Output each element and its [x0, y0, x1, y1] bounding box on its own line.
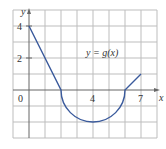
origin-label: 0: [18, 93, 23, 104]
axes: [13, 8, 160, 138]
y-axis-arrow-icon: [27, 8, 31, 14]
x-axis-label: x: [158, 92, 164, 103]
x-tick-7: 7: [138, 93, 143, 104]
y-axis-label: y: [20, 6, 26, 17]
y-tick-2: 2: [17, 53, 22, 64]
grid: [13, 10, 157, 138]
y-tick-4: 4: [17, 21, 22, 32]
graph-of-g: y x 4 2 0 4 7 y = g(x): [0, 0, 166, 149]
x-tick-4: 4: [90, 93, 95, 104]
function-label: y = g(x): [85, 47, 119, 59]
